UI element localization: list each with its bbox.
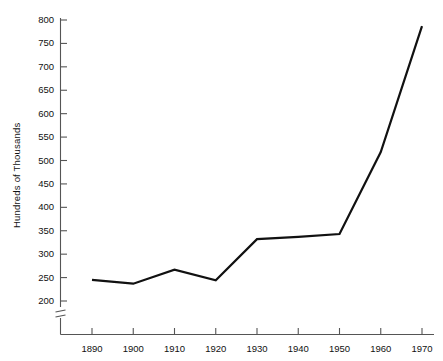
x-axis-tick-label: 1950 <box>318 344 362 354</box>
x-axis-tick-label: 1920 <box>194 344 238 354</box>
x-axis-tick-label: 1910 <box>153 344 197 354</box>
y-axis-break-icon <box>56 310 66 317</box>
x-axis-line <box>61 318 435 335</box>
x-axis-tick-label: 1930 <box>235 344 279 354</box>
plot-area <box>0 0 443 361</box>
data-series-line <box>92 26 422 284</box>
x-axis-tick-label: 1890 <box>70 344 114 354</box>
x-axis-ticks <box>92 328 422 335</box>
x-axis-tick-label: 1960 <box>359 344 403 354</box>
x-axis-tick-label: 1900 <box>111 344 155 354</box>
line-chart: Hundreds of Thousands 200250300350400450… <box>0 0 443 361</box>
x-axis-tick-label: 1940 <box>276 344 320 354</box>
y-axis-ticks <box>61 20 68 301</box>
x-axis-tick-label: 1970 <box>400 344 443 354</box>
